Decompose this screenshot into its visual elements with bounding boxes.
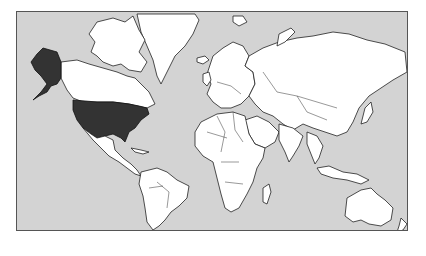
- region-europe: [207, 42, 255, 108]
- region-greenland: [137, 14, 199, 84]
- region-india: [279, 124, 303, 162]
- world-map-svg: [17, 12, 408, 231]
- region-mexico-central-america: [83, 128, 141, 176]
- region-southeast-asia: [307, 132, 323, 164]
- region-australia: [345, 188, 393, 226]
- region-canadian-arctic: [89, 16, 147, 72]
- region-alaska: [31, 48, 61, 100]
- region-new-zealand: [397, 218, 407, 231]
- region-svalbard: [233, 16, 247, 26]
- region-iceland: [197, 56, 209, 64]
- world-map: [16, 11, 408, 231]
- region-madagascar: [263, 184, 271, 204]
- region-south-america: [139, 168, 189, 230]
- region-indonesia: [317, 166, 369, 184]
- region-british-isles: [203, 72, 211, 86]
- region-united-states: [73, 100, 149, 142]
- region-japan: [361, 102, 373, 124]
- region-caribbean: [131, 148, 149, 154]
- region-russia-asia: [245, 32, 407, 136]
